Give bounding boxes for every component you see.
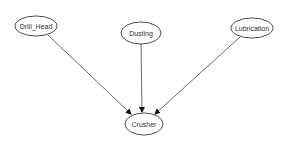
diagram-canvas: Drill_HeadDustingLubricationCrusher — [0, 0, 289, 144]
nodes-layer: Drill_HeadDustingLubricationCrusher — [15, 16, 273, 135]
node-label: Dusting — [129, 30, 153, 38]
edge-lubrication-to-crusher — [155, 37, 240, 114]
node-lubrication[interactable]: Lubrication — [231, 18, 273, 38]
node-label: Crusher — [132, 121, 158, 128]
node-label: Drill_Head — [20, 23, 53, 31]
node-dusting[interactable]: Dusting — [121, 22, 161, 44]
node-drill_head[interactable]: Drill_Head — [15, 16, 57, 36]
node-crusher[interactable]: Crusher — [125, 113, 163, 135]
edges-layer — [48, 35, 240, 114]
node-label: Lubrication — [235, 25, 269, 32]
edge-dusting-to-crusher — [141, 44, 142, 112]
edge-drill_head-to-crusher — [48, 35, 131, 114]
